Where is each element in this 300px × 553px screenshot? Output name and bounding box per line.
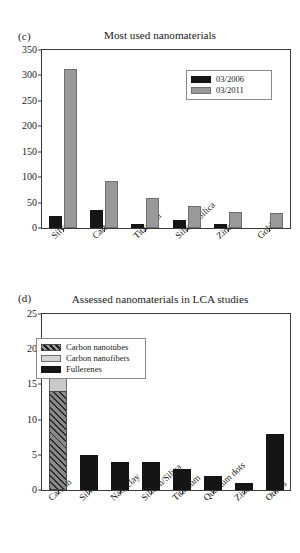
y-axis-tick-mark — [38, 202, 42, 203]
figure-c-most-used-nanomaterials: (c) Most used nanomaterials 050100150200… — [0, 0, 300, 280]
chart-title-d: Assessed nanomaterials in LCA studies — [40, 293, 280, 305]
y-axis-tick-mark — [38, 384, 42, 385]
legend-swatch-icon — [41, 366, 61, 373]
bar-silicon-silica — [142, 462, 160, 490]
legend-d: Carbon nanotubes Carbon nanofibers Fulle… — [36, 338, 146, 379]
legend-item: 03/2006 — [191, 74, 266, 85]
legend-swatch-icon — [41, 344, 61, 351]
bar-titanium — [173, 469, 191, 490]
y-axis-tick-mark — [38, 126, 42, 127]
bar-silver-032006 — [49, 216, 62, 228]
bar-segment — [235, 483, 253, 490]
y-axis-tick-mark — [38, 228, 42, 229]
y-axis-tick-mark — [38, 151, 42, 152]
bar-gold-032011 — [270, 213, 283, 228]
bar-segment — [173, 469, 191, 490]
bar-titanium-032006 — [131, 224, 144, 228]
y-axis-tick-mark — [38, 490, 42, 491]
bar-segment — [204, 476, 222, 490]
bar-silver — [80, 455, 98, 490]
legend-c: 03/2006 03/2011 — [186, 70, 272, 100]
legend-label: Carbon nanotubes — [66, 343, 128, 352]
bar-segment — [142, 462, 160, 490]
legend-item: Carbon nanotubes — [41, 342, 140, 353]
bar-titanium-032011 — [146, 198, 159, 229]
bar-quantum-dots — [204, 476, 222, 490]
y-axis-tick-mark — [38, 75, 42, 76]
figure-d-assessed-nanomaterials: (d) Assessed nanomaterials in LCA studie… — [0, 280, 300, 553]
bar-carbon-032011 — [105, 181, 118, 228]
bar-silicon-silica-032006 — [173, 220, 186, 228]
bar-segment — [49, 391, 67, 490]
chart-title-c: Most used nanomaterials — [60, 29, 260, 41]
panel-letter-c: (c) — [18, 30, 31, 42]
y-axis-tick-mark — [38, 454, 42, 455]
panel-letter-d: (d) — [18, 292, 31, 304]
y-axis-tick-mark — [38, 100, 42, 101]
legend-swatch-icon — [191, 76, 211, 83]
y-axis-tick-mark — [38, 177, 42, 178]
legend-label: 03/2011 — [216, 86, 244, 95]
bar-segment — [80, 455, 98, 490]
bar-zinc — [235, 483, 253, 490]
bar-carbon-032006 — [90, 210, 103, 228]
legend-item: Carbon nanofibers — [41, 353, 140, 364]
legend-swatch-icon — [41, 355, 61, 362]
legend-item: 03/2011 — [191, 85, 266, 96]
legend-label: 03/2006 — [216, 75, 244, 84]
bar-zinc-032006 — [214, 224, 227, 228]
legend-item: Fullerenes — [41, 364, 140, 375]
legend-label: Carbon nanofibers — [66, 354, 130, 363]
bar-segment — [111, 462, 129, 490]
bar-silver-032011 — [64, 69, 77, 228]
legend-swatch-icon — [191, 87, 211, 94]
bar-segment — [266, 434, 284, 490]
bar-nanoclay — [111, 462, 129, 490]
y-axis-tick-mark — [38, 50, 42, 51]
y-axis-tick-mark — [38, 314, 42, 315]
y-axis-tick-mark — [38, 419, 42, 420]
bar-zinc-032011 — [229, 212, 242, 228]
legend-label: Fullerenes — [66, 365, 102, 374]
bar-others — [266, 434, 284, 490]
bar-silicon-silica-032011 — [188, 206, 201, 228]
